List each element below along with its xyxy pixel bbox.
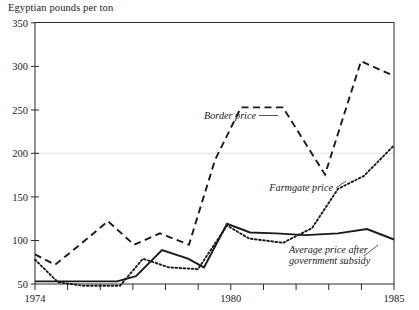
x-tick-label-1980: 1980	[220, 293, 241, 304]
y-tick-label: 250	[12, 105, 28, 116]
y-axis-labels: 350 300 250 200 150 100 50	[12, 18, 28, 290]
y-tick-label: 50	[18, 279, 29, 290]
y-tick-label: 150	[12, 192, 28, 203]
annotation-average-price-line2: government subsidy	[289, 255, 371, 266]
annotation-border-price: Border price	[204, 110, 256, 121]
series-line-border-price	[35, 61, 394, 265]
chart-canvas: 350 300 250 200 150 100 50 1974 1980	[0, 0, 419, 310]
y-tick-label: 350	[12, 18, 28, 29]
x-axis-labels: 1974 1980 1985	[25, 293, 405, 304]
y-tick-label: 300	[12, 61, 28, 72]
y-tick-label: 100	[12, 235, 28, 246]
annotation-farmgate-price: Farmgate price	[268, 182, 333, 193]
chart-figure: Egyptian pounds per ton 350 300 250 200 …	[0, 0, 419, 310]
x-tick-label-1985: 1985	[384, 293, 405, 304]
x-tick-label-1974: 1974	[25, 293, 47, 304]
annotation-average-price-line1: Average price after	[288, 244, 368, 255]
y-tick-label: 200	[12, 148, 28, 159]
